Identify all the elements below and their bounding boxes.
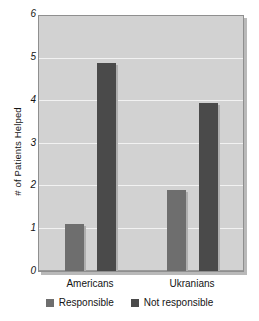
x-category-label-0: Americans [66,278,113,289]
bar-fill [199,103,218,271]
bar-fill [167,190,186,271]
y-tick-5: 5 [30,52,36,62]
bar-responsible-americans [65,224,84,271]
y-tick-6: 6 [30,9,36,19]
plot-area [38,15,244,272]
gridline-5 [39,58,243,59]
bar-fill [97,63,116,271]
bar-responsible-ukranians [167,190,186,271]
legend-swatch-icon-1 [131,299,139,307]
y-tick-2: 2 [30,180,36,190]
y-tick-3: 3 [30,138,36,148]
gridline-6 [39,15,243,16]
x-category-label-1: Ukranians [169,278,214,289]
y-axis-tick-labels: 0 1 2 3 4 5 6 [18,14,36,272]
y-tick-0: 0 [30,266,36,276]
legend-item-0[interactable]: Responsible [46,298,114,308]
x-axis-category-labels: AmericansUkranians [38,278,244,294]
legend-label-0: Responsible [59,298,114,308]
gridline-4 [39,100,243,101]
legend-item-1[interactable]: Not responsible [131,298,213,308]
chart-title-clipped [0,0,259,10]
bar-not-responsible-americans [97,63,116,271]
bar-chart-figure: # of Patients Helped 0 1 2 3 4 5 6 Ameri… [0,0,259,321]
bar-fill [65,224,84,271]
legend-label-1: Not responsible [144,298,213,308]
chart-legend: ResponsibleNot responsible [0,298,259,308]
bar-not-responsible-ukranians [199,103,218,271]
legend-swatch-icon-0 [46,299,54,307]
y-tick-4: 4 [30,95,36,105]
y-tick-1: 1 [30,223,36,233]
